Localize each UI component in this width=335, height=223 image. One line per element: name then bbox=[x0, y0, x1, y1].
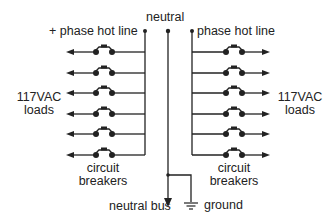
right-load-arrow-icon bbox=[262, 111, 270, 117]
neutral-terminal bbox=[166, 29, 170, 33]
left-circuit-breaker bbox=[93, 127, 115, 138]
left-circuit-breaker bbox=[93, 148, 115, 159]
left-load-arrow-icon bbox=[66, 90, 74, 96]
right-load-arrow-icon bbox=[262, 131, 270, 137]
left-circuit-breaker bbox=[93, 66, 115, 77]
left-circuit-breaker bbox=[93, 86, 115, 97]
right-load-arrow-icon bbox=[262, 70, 270, 76]
left-loads-label: 117VAC loads bbox=[14, 91, 64, 117]
left-breakers-label: circuit breakers bbox=[75, 162, 131, 188]
neutral-bus-label: neutral bus bbox=[109, 200, 171, 213]
right-circuit-breaker bbox=[223, 127, 245, 138]
right-circuit-breaker bbox=[223, 107, 245, 118]
right-circuit-breaker bbox=[223, 86, 245, 97]
right-circuit-breaker bbox=[223, 66, 245, 77]
left-load-arrow-icon bbox=[66, 49, 74, 55]
left-hot-line-label: + phase hot line bbox=[49, 25, 138, 38]
right-hot-line-label: phase hot line bbox=[197, 25, 275, 38]
right-breakers-label: circuit breakers bbox=[206, 162, 262, 188]
right-loads-label: 117VAC loads bbox=[275, 91, 325, 117]
right-load-arrow-icon bbox=[262, 152, 270, 158]
left-load-arrow-icon bbox=[66, 131, 74, 137]
left-hot-terminal bbox=[143, 29, 147, 33]
ground-label: ground bbox=[204, 199, 243, 212]
right-load-arrow-icon bbox=[262, 49, 270, 55]
left-load-arrow-icon bbox=[66, 111, 74, 117]
right-circuit-breaker bbox=[223, 45, 245, 56]
right-load-arrow-icon bbox=[262, 90, 270, 96]
ground-icon bbox=[184, 203, 198, 209]
left-circuit-breaker bbox=[93, 107, 115, 118]
neutral-label: neutral bbox=[146, 11, 184, 24]
right-hot-terminal bbox=[190, 29, 194, 33]
neutral-junction bbox=[166, 173, 170, 177]
left-circuit-breaker bbox=[93, 45, 115, 56]
left-load-arrow-icon bbox=[66, 152, 74, 158]
right-circuit-breaker bbox=[223, 148, 245, 159]
ground-connection bbox=[168, 175, 191, 202]
left-load-arrow-icon bbox=[66, 70, 74, 76]
